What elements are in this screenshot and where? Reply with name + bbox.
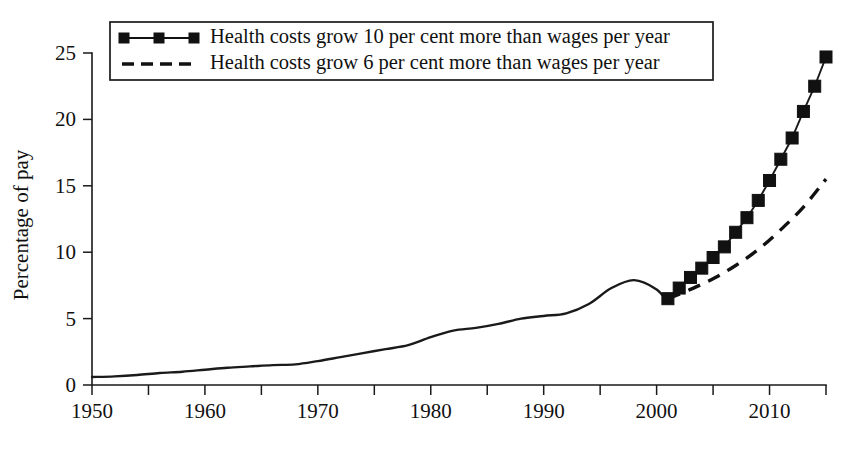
high-growth-marker <box>673 282 685 294</box>
legend-square-marker <box>154 33 165 44</box>
x-tick-label: 1980 <box>410 399 452 423</box>
high-growth-marker <box>730 226 742 238</box>
high-growth-marker <box>752 194 764 206</box>
legend-entry-label: Health costs grow 6 per cent more than w… <box>210 51 660 74</box>
y-tick-label: 15 <box>55 174 76 198</box>
x-tick-label: 1970 <box>297 399 339 423</box>
y-tick-label: 25 <box>55 41 76 65</box>
chart-container: 0510152025 1950196019701980199020002010 … <box>0 0 848 449</box>
chart-legend: Health costs grow 10 per cent more than … <box>110 22 713 80</box>
x-tick-label: 2000 <box>636 399 678 423</box>
x-tick-label: 1950 <box>71 399 113 423</box>
high-growth-marker <box>718 241 730 253</box>
high-growth-marker <box>797 105 809 117</box>
legend-square-marker <box>119 33 130 44</box>
legend-square-marker <box>189 33 200 44</box>
high-growth-marker <box>786 132 798 144</box>
x-tick-label: 2010 <box>749 399 791 423</box>
y-tick-label: 0 <box>66 373 77 397</box>
x-tick-label: 1990 <box>523 399 565 423</box>
high-growth-marker <box>707 252 719 264</box>
line-chart: 0510152025 1950196019701980199020002010 … <box>0 0 848 449</box>
high-growth-marker <box>775 153 787 165</box>
high-growth-marker <box>684 271 696 283</box>
x-tick-label: 1960 <box>184 399 226 423</box>
high-growth-marker <box>820 51 832 63</box>
legend-entry-label: Health costs grow 10 per cent more than … <box>210 25 670 48</box>
y-tick-label: 10 <box>55 240 76 264</box>
high-growth-marker <box>809 80 821 92</box>
high-growth-marker <box>764 174 776 186</box>
y-axis-title: Percentage of pay <box>9 149 33 300</box>
y-tick-label: 20 <box>55 107 76 131</box>
high-growth-marker <box>741 212 753 224</box>
high-growth-marker <box>696 262 708 274</box>
y-tick-label: 5 <box>66 307 77 331</box>
